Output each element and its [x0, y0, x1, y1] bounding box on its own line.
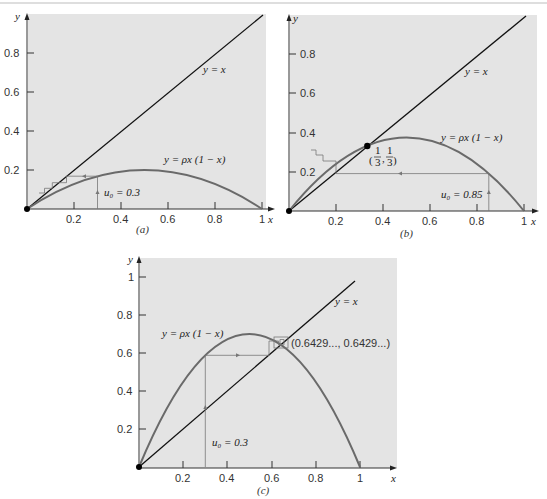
y-tick-label: 0.2 — [300, 166, 315, 178]
x-tick-label: 0.4 — [113, 213, 128, 225]
y-axis-label: y — [127, 253, 133, 265]
y-tick-label: 0.6 — [117, 347, 132, 359]
x-tick-label: 0.2 — [328, 215, 343, 227]
svg-text:(: ( — [369, 154, 373, 167]
x-tick-label: 0.6 — [264, 472, 279, 484]
fixed-point-dot — [364, 143, 370, 149]
x-tick-label: 0.2 — [66, 213, 81, 225]
x-tick-label: 0.6 — [422, 215, 437, 227]
panel-caption: (b) — [400, 227, 413, 240]
x-tick-label: 0.2 — [175, 472, 190, 484]
panel-a: 0.2 0.4 0.6 0.8 0.2 0.4 0.6 0.8 1 x y y … — [4, 10, 275, 236]
identity-label: y = x — [334, 295, 358, 307]
fixed-point-label: (0.6429..., 0.6429...) — [291, 337, 390, 349]
y-axis-label: y — [292, 12, 298, 24]
svg-text:1: 1 — [375, 144, 381, 156]
fixed-point-dot — [24, 206, 30, 212]
x-tick-label: 0.8 — [308, 472, 323, 484]
x-tick-label: 1 — [357, 472, 363, 484]
y-tick-label: 0.6 — [300, 87, 315, 99]
plot-background — [140, 258, 397, 468]
curve-label: y = ρx (1 − x) — [163, 153, 226, 166]
y-tick-label: 0.6 — [4, 86, 19, 98]
x-axis-arrow-icon — [268, 207, 275, 212]
curve-label: y = ρx (1 − x) — [440, 131, 503, 144]
x-axis-label: x — [530, 215, 536, 227]
identity-label: y = x — [202, 63, 226, 75]
svg-text:1: 1 — [387, 144, 393, 156]
origin-dot — [136, 464, 142, 470]
y-tick-label: 0.8 — [4, 47, 19, 59]
identity-label: y = x — [464, 65, 488, 77]
y-tick-label: 0.4 — [4, 125, 19, 137]
y-tick-label: 0.2 — [4, 164, 19, 176]
svg-text:,: , — [382, 152, 385, 164]
x-axis-label: x — [267, 213, 273, 225]
panel-b: 0.2 0.4 0.6 0.8 0.2 0.4 0.6 0.8 1 x y ( … — [286, 12, 539, 240]
panel-caption: (a) — [136, 223, 149, 236]
start-label: u₀ = 0.3 — [104, 186, 140, 198]
y-tick-label: 0.4 — [300, 127, 315, 139]
svg-text:): ) — [393, 154, 397, 167]
y-tick-label: 0.8 — [300, 48, 315, 60]
x-tick-label: 0.4 — [219, 472, 234, 484]
panel-c: 0.2 0.4 0.6 0.8 1 0.2 0.4 0.6 0.8 1 x y … — [117, 253, 397, 497]
plot-background — [290, 15, 537, 211]
y-tick-label: 0.4 — [117, 385, 132, 397]
start-label: u₀ = 0.3 — [212, 436, 248, 448]
plot-background — [28, 14, 266, 209]
y-tick-label: 0.2 — [117, 423, 132, 435]
x-tick-label: 0.6 — [160, 213, 175, 225]
y-tick-label: 1 — [128, 271, 134, 283]
x-tick-label: 0.8 — [207, 213, 222, 225]
x-tick-label: 0.8 — [469, 215, 484, 227]
x-tick-label: 1 — [259, 213, 265, 225]
curve-label: y = ρx (1 − x) — [161, 327, 224, 340]
svg-text:3: 3 — [375, 156, 381, 168]
x-tick-label: 1 — [521, 215, 527, 227]
x-tick-label: 0.4 — [375, 215, 390, 227]
y-axis-label: y — [14, 10, 20, 22]
y-tick-label: 0.8 — [117, 309, 132, 321]
panel-caption: (c) — [257, 484, 270, 497]
figure: 0.2 0.4 0.6 0.8 0.2 0.4 0.6 0.8 1 x y y … — [0, 0, 547, 499]
x-axis-label: x — [390, 472, 396, 484]
origin-dot — [286, 208, 292, 214]
start-label: u₀ = 0.85 — [441, 188, 483, 200]
